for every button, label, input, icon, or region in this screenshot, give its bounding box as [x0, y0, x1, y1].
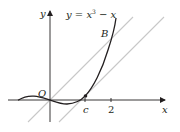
equation-label: y = x3 − x [65, 8, 117, 20]
equation-rhs: − x [96, 9, 117, 20]
mean-value-theorem-figure: y x O B c 2 y = x3 − x [0, 0, 180, 132]
tick-label-2: 2 [108, 104, 114, 115]
origin-label: O [38, 88, 46, 99]
y-axis-label: y [39, 8, 46, 19]
x-axis-label: x [162, 104, 168, 115]
tick-label-c: c [83, 104, 89, 115]
equation-lhs: y = x [65, 9, 92, 20]
tangent-point-dot [84, 94, 88, 98]
point-b-label: B [100, 28, 108, 39]
plot-canvas: y x O B c 2 y = x3 − x [0, 0, 180, 132]
secant-line-OB [28, 17, 133, 122]
